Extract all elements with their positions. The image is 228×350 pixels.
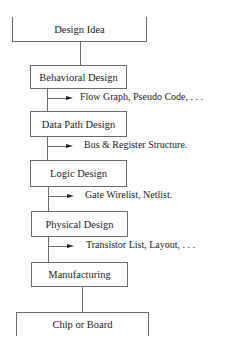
output-arrow-line [48, 246, 68, 247]
arrow-right-icon [67, 194, 74, 198]
stage-data-path-design: Data Path Design [30, 111, 127, 137]
output-physical: Transistor List, Layout, . . . [86, 239, 195, 250]
output-logic: Gate Wirelist, Netlist. [85, 189, 172, 200]
connector [47, 137, 48, 160]
stage-chip-or-board: Chip or Board [16, 312, 149, 336]
output-behavioral: Flow Graph, Pseudo Code, . . . [80, 91, 203, 102]
output-arrow-line [47, 98, 67, 99]
stage-label: Design Idea [54, 24, 104, 35]
connector [47, 89, 48, 111]
stage-label: Chip or Board [52, 319, 112, 330]
stage-behavioral-design: Behavioral Design [30, 65, 127, 89]
stage-label: Physical Design [46, 219, 114, 230]
stage-physical-design: Physical Design [31, 211, 128, 237]
connector [48, 187, 49, 211]
connector [80, 42, 81, 65]
connector [48, 237, 49, 262]
stage-manufacturing: Manufacturing [31, 262, 128, 287]
arrow-right-icon [67, 244, 74, 248]
output-arrow-line [47, 146, 67, 147]
arrow-right-icon [66, 96, 73, 100]
output-data-path: Bus & Register Structure. [84, 139, 187, 150]
stage-label: Manufacturing [48, 269, 110, 280]
arrow-right-icon [66, 144, 73, 148]
stage-label: Logic Design [50, 168, 107, 179]
stage-design-idea: Design Idea [12, 17, 147, 42]
connector [82, 287, 83, 312]
output-arrow-line [48, 196, 68, 197]
stage-logic-design: Logic Design [30, 160, 127, 187]
stage-label: Behavioral Design [39, 72, 117, 83]
stage-label: Data Path Design [42, 119, 116, 130]
